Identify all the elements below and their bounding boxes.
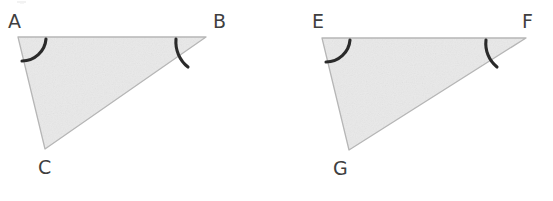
geometry-figure-svg <box>0 0 553 201</box>
vertex-label-e: E <box>312 12 325 31</box>
geometry-figure-canvas: A B C E F G <box>0 0 553 201</box>
vertex-label-f: F <box>522 12 533 31</box>
scan-artifact <box>17 1 26 4</box>
vertex-label-a: A <box>8 12 22 31</box>
triangle-efg <box>322 25 526 150</box>
vertex-label-b: B <box>213 12 227 31</box>
triangle-efg-fill <box>322 38 526 150</box>
triangle-abc <box>18 24 206 149</box>
vertex-label-g: G <box>333 159 348 178</box>
vertex-label-c: C <box>38 158 52 177</box>
